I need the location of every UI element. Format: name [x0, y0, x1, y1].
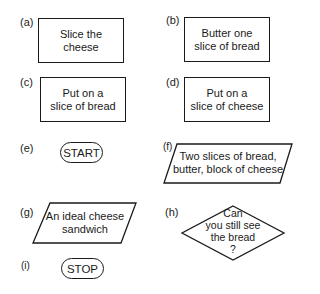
terminator-stop: STOP — [61, 258, 104, 279]
terminator-start: START — [60, 142, 103, 163]
decision-text-line: you still see — [193, 219, 273, 231]
io-text-line: Two slices of bread, — [168, 150, 288, 163]
process-text-line: slice of bread — [50, 100, 115, 113]
decision-text-line: Can — [193, 207, 273, 219]
decision-text: Can you still see the bread ? — [193, 207, 273, 255]
label-e: (e) — [20, 142, 33, 154]
process-text-line: slice of cheese — [191, 100, 264, 113]
io-text-line: sandwich — [40, 223, 130, 236]
process-box-put-bread: Put on a slice of bread — [40, 77, 126, 122]
process-text-line: Butter one — [194, 27, 259, 40]
terminator-text: STOP — [67, 263, 98, 275]
label-h: (h) — [165, 206, 178, 218]
process-text-line: Put on a — [191, 87, 264, 100]
decision-text-line: ? — [193, 243, 273, 255]
process-text-line: Slice the — [60, 28, 102, 41]
decision-text-line: the bread — [193, 231, 273, 243]
io-text-line: An ideal cheese — [40, 210, 130, 223]
label-c: (c) — [20, 76, 33, 88]
terminator-text: START — [63, 147, 100, 159]
label-i: (i) — [21, 260, 30, 271]
io-text-line: butter, block of cheese — [168, 163, 288, 176]
io-text-sandwich: An ideal cheese sandwich — [40, 210, 130, 236]
label-g: (g) — [20, 206, 33, 218]
process-text-line: cheese — [60, 41, 102, 54]
process-box-butter-bread: Butter one slice of bread — [184, 17, 270, 62]
process-box-slice-cheese: Slice the cheese — [38, 18, 124, 63]
process-text-line: Put on a — [50, 87, 115, 100]
label-a: (a) — [20, 16, 33, 28]
label-d: (d) — [166, 76, 179, 88]
process-box-put-cheese: Put on a slice of cheese — [184, 77, 270, 122]
io-text-ingredients: Two slices of bread, butter, block of ch… — [168, 150, 288, 176]
label-b: (b) — [166, 14, 179, 26]
process-text-line: slice of bread — [194, 40, 259, 53]
